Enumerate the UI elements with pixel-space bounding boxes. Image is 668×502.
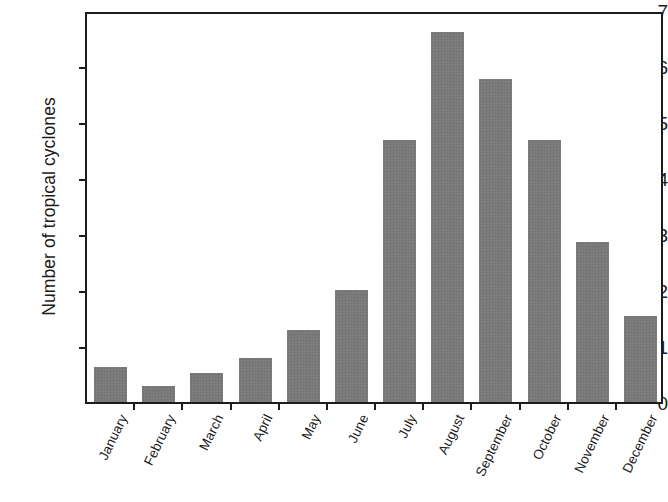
bar[interactable] <box>142 386 175 402</box>
x-axis-tick <box>470 404 472 410</box>
bar[interactable] <box>383 140 416 402</box>
bar-slot <box>232 14 280 402</box>
bar-slot <box>328 14 376 402</box>
x-axis-tick <box>422 404 424 410</box>
bar[interactable] <box>94 367 127 402</box>
x-axis-tick <box>230 404 232 410</box>
bar-slot <box>87 14 135 402</box>
bar-slot <box>521 14 569 402</box>
bar[interactable] <box>624 316 657 402</box>
x-axis-tick <box>278 404 280 410</box>
x-axis-tick <box>567 404 569 410</box>
bar[interactable] <box>335 290 368 402</box>
x-axis-tick <box>374 404 376 410</box>
y-axis-title: Number of tropical cyclones <box>39 37 60 377</box>
x-axis-tick <box>133 404 135 410</box>
bars-layer <box>87 14 661 402</box>
bar[interactable] <box>576 242 609 402</box>
x-axis-tick <box>519 404 521 410</box>
x-axis-tick <box>326 404 328 410</box>
bar-slot <box>135 14 183 402</box>
x-axis-tick-label: January <box>64 412 130 502</box>
x-axis-tick <box>181 404 183 410</box>
bar-slot <box>183 14 231 402</box>
bar[interactable] <box>528 140 561 402</box>
bar-slot <box>617 14 665 402</box>
bar-slot <box>376 14 424 402</box>
bar[interactable] <box>239 358 272 402</box>
bar[interactable] <box>479 79 512 402</box>
bar-slot <box>424 14 472 402</box>
plot-area <box>85 12 663 404</box>
bar[interactable] <box>190 373 223 402</box>
bar-chart-figure: Number of tropical cyclones 01234567 Jan… <box>0 0 668 502</box>
bar-slot <box>280 14 328 402</box>
bar[interactable] <box>431 32 464 402</box>
bar-slot <box>472 14 520 402</box>
bar[interactable] <box>287 330 320 402</box>
bar-slot <box>569 14 617 402</box>
x-axis-tick <box>615 404 617 410</box>
